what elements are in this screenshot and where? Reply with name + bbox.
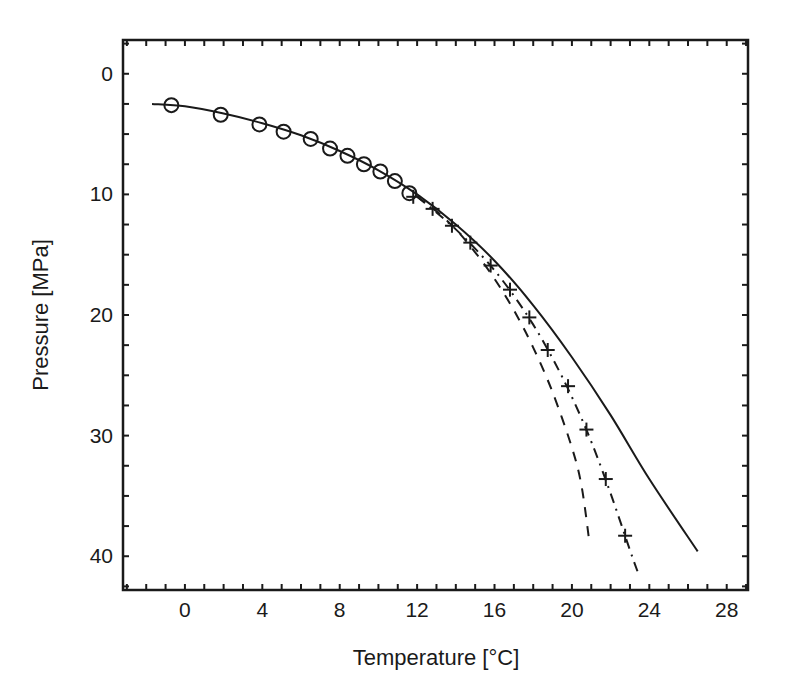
- plot-markers: [164, 98, 632, 543]
- plot-frame: [123, 40, 748, 590]
- tick-labels: 0481216202428010203040: [90, 62, 739, 621]
- circle-marker: [388, 174, 402, 188]
- y-axis-title: Pressure [MPa]: [28, 239, 53, 391]
- plus-marker: [541, 343, 555, 357]
- plus-marker: [522, 310, 536, 324]
- x-tick-label: 28: [715, 598, 738, 621]
- plus-marker: [561, 379, 575, 393]
- plus-marker: [406, 190, 420, 204]
- chart: 0481216202428010203040 Temperature [°C] …: [0, 0, 790, 700]
- y-tick-label: 40: [90, 544, 113, 567]
- x-tick-label: 16: [483, 598, 506, 621]
- x-tick-label: 12: [405, 598, 428, 621]
- y-tick-label: 20: [90, 303, 113, 326]
- x-tick-label: 4: [256, 598, 268, 621]
- plus-marker: [579, 423, 593, 437]
- plus-marker: [618, 529, 632, 543]
- dashed-curve: [417, 197, 589, 542]
- axis-ticks: [123, 40, 748, 590]
- plus-marker: [599, 472, 613, 486]
- x-axis-title: Temperature [°C]: [353, 645, 520, 670]
- x-tick-label: 20: [560, 598, 583, 621]
- x-tick-label: 24: [638, 598, 662, 621]
- dashdot-curve: [417, 197, 638, 572]
- y-tick-label: 10: [90, 182, 113, 205]
- solid-curve: [152, 104, 698, 551]
- x-tick-label: 8: [334, 598, 346, 621]
- y-tick-label: 0: [101, 62, 113, 85]
- plot-lines: [152, 104, 698, 572]
- x-tick-label: 0: [179, 598, 191, 621]
- y-tick-label: 30: [90, 424, 113, 447]
